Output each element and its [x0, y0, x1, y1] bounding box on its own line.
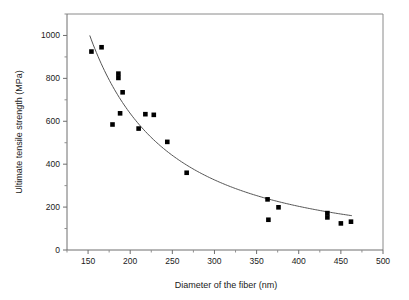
data-point	[118, 111, 123, 116]
y-axis-ticks	[63, 14, 67, 250]
y-tick-label: 1000	[41, 30, 60, 40]
y-tick-label: 600	[46, 116, 60, 126]
y-tick-label: 400	[46, 159, 60, 169]
data-point	[339, 221, 344, 226]
x-tick-label: 200	[123, 256, 137, 266]
data-point	[165, 140, 170, 145]
data-points	[89, 45, 353, 226]
data-point	[265, 197, 270, 202]
data-point	[99, 45, 104, 50]
data-point	[325, 215, 330, 220]
data-point	[325, 211, 330, 216]
x-tick-label: 300	[207, 256, 221, 266]
x-tick-label: 350	[250, 256, 264, 266]
data-point	[116, 71, 121, 76]
y-tick-labels: 02004006008001000	[41, 30, 60, 255]
data-point	[349, 219, 354, 224]
chart-container: 150200250300350400450500 020040060080010…	[0, 0, 409, 300]
scatter-plot: 150200250300350400450500 020040060080010…	[0, 0, 409, 300]
x-tick-label: 500	[376, 256, 390, 266]
data-point	[276, 205, 281, 210]
x-axis-title: Diameter of the fiber (nm)	[175, 280, 278, 290]
data-point	[143, 112, 148, 117]
x-tick-label: 250	[165, 256, 179, 266]
data-point	[120, 90, 125, 95]
data-point	[116, 76, 121, 81]
x-tick-labels: 150200250300350400450500	[81, 256, 390, 266]
x-tick-label: 150	[81, 256, 95, 266]
plot-frame	[67, 14, 383, 250]
y-tick-label: 200	[46, 202, 60, 212]
x-axis-ticks	[67, 250, 383, 254]
y-tick-label: 800	[46, 73, 60, 83]
data-point	[136, 126, 141, 131]
data-point	[89, 49, 94, 54]
data-point	[266, 217, 271, 222]
data-point	[151, 113, 156, 118]
data-point	[184, 170, 189, 175]
y-axis-title: Ultimate tensile strength (MPa)	[14, 70, 24, 194]
trend-line	[90, 35, 352, 215]
x-tick-label: 450	[334, 256, 348, 266]
data-point	[110, 122, 115, 127]
x-tick-label: 400	[292, 256, 306, 266]
y-tick-label: 0	[55, 245, 60, 255]
